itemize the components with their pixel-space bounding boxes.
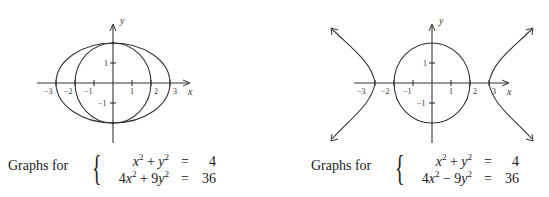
left-caption: Graphs for { x2 + y2 = 4 4x2 + 9y2 = 36 xyxy=(0,150,260,195)
hyperbola-arrow-bottom-left-icon xyxy=(331,134,338,141)
left-eq-sign-2: = xyxy=(178,171,192,187)
left-plot xyxy=(37,24,190,143)
right-eq-row-1: x2 + y2 xyxy=(408,154,472,170)
right-y-label: y xyxy=(438,15,444,26)
left-eq-sign-1: = xyxy=(178,154,192,170)
svg-text:1: 1 xyxy=(104,59,108,68)
left-eq-row-1: x2 + y2 xyxy=(105,154,169,170)
right-rhs-1: 4 xyxy=(503,154,519,170)
svg-text:−2: −2 xyxy=(381,87,390,96)
svg-text:3: 3 xyxy=(173,87,177,96)
right-hyperbola-left-branch xyxy=(332,29,375,139)
right-caption: Graphs for { x2 + y2 = 4 4x2 − 9y2 = 36 xyxy=(303,150,549,195)
hyperbola-arrow-bottom-right-icon xyxy=(526,134,533,141)
svg-text:−1: −1 xyxy=(403,87,412,96)
right-eq-row-2: 4x2 − 9y2 xyxy=(403,171,472,187)
svg-text:−1: −1 xyxy=(98,99,107,108)
svg-text:−3: −3 xyxy=(357,87,366,96)
left-caption-lead: Graphs for xyxy=(8,158,68,174)
right-caption-lead: Graphs for xyxy=(311,158,371,174)
svg-text:1: 1 xyxy=(449,87,453,96)
left-labels: y x −3 −2 −1 1 2 3 1 −1 xyxy=(44,15,193,108)
left-x-label: x xyxy=(187,86,193,97)
left-rhs-1: 4 xyxy=(200,154,216,170)
right-eq-sign-2: = xyxy=(481,171,495,187)
right-plot xyxy=(331,24,533,143)
svg-text:2: 2 xyxy=(154,87,158,96)
left-eq-row-2: 4x2 + 9y2 xyxy=(100,171,169,187)
svg-text:−1: −1 xyxy=(417,99,426,108)
svg-text:1: 1 xyxy=(130,87,134,96)
left-rhs-2: 36 xyxy=(200,171,216,187)
left-y-label: y xyxy=(119,15,125,26)
right-hyperbola-right-branch xyxy=(489,29,532,139)
svg-text:−1: −1 xyxy=(84,87,93,96)
svg-text:2: 2 xyxy=(473,87,477,96)
svg-text:−2: −2 xyxy=(64,87,73,96)
svg-text:−3: −3 xyxy=(44,87,53,96)
svg-text:1: 1 xyxy=(423,59,427,68)
right-x-label: x xyxy=(506,86,512,97)
svg-text:3: 3 xyxy=(492,87,496,96)
right-rhs-2: 36 xyxy=(503,171,519,187)
right-eq-sign-1: = xyxy=(481,154,495,170)
